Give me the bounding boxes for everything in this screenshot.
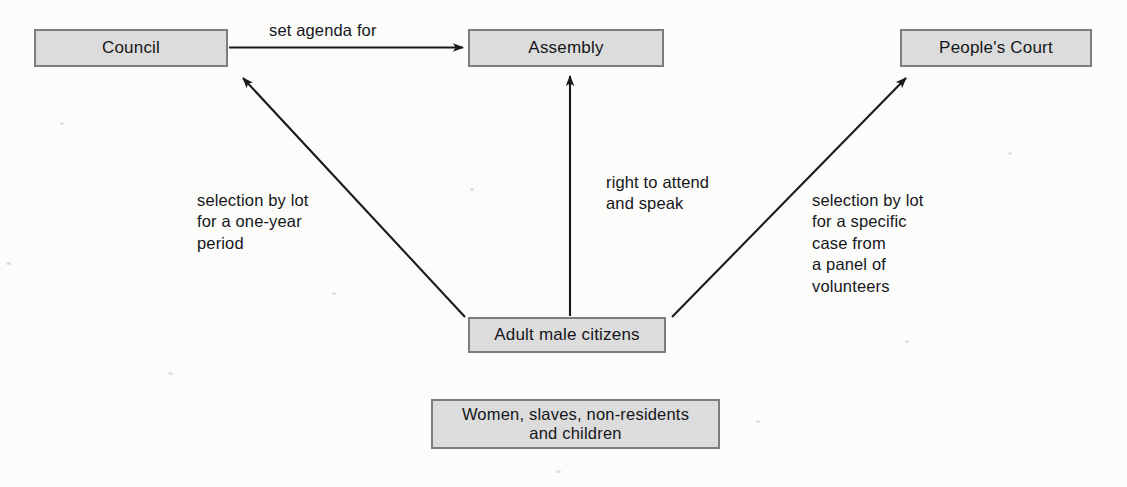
edge-label-right-to-attend-and-speak: right to attend and speak bbox=[606, 172, 709, 215]
node-assembly[interactable]: Assembly bbox=[468, 29, 664, 67]
edge-label-set-agenda-for: set agenda for bbox=[269, 20, 377, 41]
node-peoples-court[interactable]: People's Court bbox=[900, 29, 1092, 67]
edge-label-selection-by-lot-specific-case: selection by lot for a specific case fro… bbox=[812, 190, 924, 297]
node-adult-male-citizens[interactable]: Adult male citizens bbox=[468, 317, 666, 353]
edge-label-selection-by-lot-one-year: selection by lot for a one-year period bbox=[197, 190, 309, 254]
node-excluded-groups[interactable]: Women, slaves, non-residents and childre… bbox=[431, 399, 720, 449]
diagram-canvas: Council Assembly People's Court Adult ma… bbox=[0, 0, 1127, 487]
node-council[interactable]: Council bbox=[34, 29, 228, 67]
